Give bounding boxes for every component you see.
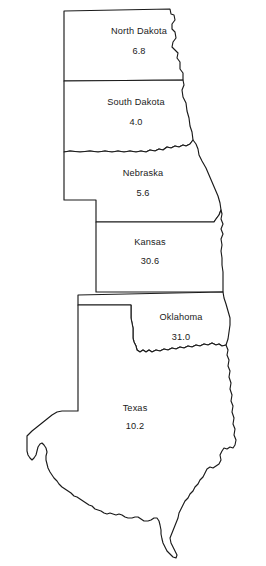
state-value-kansas: 30.6 xyxy=(141,256,159,266)
state-label-texas: Texas xyxy=(123,403,148,413)
state-label-kansas: Kansas xyxy=(134,237,166,247)
state-shape-nebraska[interactable] xyxy=(64,140,221,222)
state-value-south-dakota: 4.0 xyxy=(129,117,142,127)
map-container: North Dakota 6.8 South Dakota 4.0 Nebras… xyxy=(0,0,266,566)
state-shape-south-dakota[interactable] xyxy=(64,80,193,152)
great-plains-map: North Dakota 6.8 South Dakota 4.0 Nebras… xyxy=(0,0,266,566)
state-shape-kansas[interactable] xyxy=(96,210,223,292)
state-shape-north-dakota[interactable] xyxy=(64,9,183,81)
state-label-nebraska: Nebraska xyxy=(123,168,164,178)
state-value-texas: 10.2 xyxy=(126,421,144,431)
state-label-north-dakota: North Dakota xyxy=(111,26,168,36)
state-value-oklahoma: 31.0 xyxy=(172,332,190,342)
state-label-oklahoma: Oklahoma xyxy=(159,312,203,322)
state-label-south-dakota: South Dakota xyxy=(107,97,165,107)
state-value-north-dakota: 6.8 xyxy=(132,46,145,56)
state-shapes-layer xyxy=(27,9,236,558)
state-value-nebraska: 5.6 xyxy=(136,188,149,198)
